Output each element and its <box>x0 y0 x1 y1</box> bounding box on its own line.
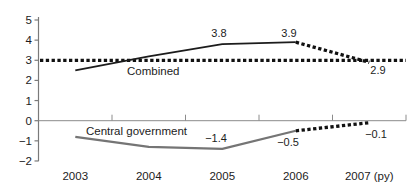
data-label-2.9: 2.9 <box>370 64 385 76</box>
y-axis-label: 1 <box>26 95 32 107</box>
data-label-minus-0.1: −0.1 <box>365 128 387 140</box>
series-label-central-government: Central government <box>86 125 188 137</box>
x-axis-label: 2007 (py) <box>345 170 394 182</box>
y-axis-label: 3 <box>26 54 32 66</box>
data-label-3.9: 3.9 <box>281 27 296 39</box>
y-axis-label: 4 <box>26 34 33 46</box>
data-label-minus-0.5: −0.5 <box>277 136 299 148</box>
y-axis-label: 0 <box>26 115 32 127</box>
line-combined <box>75 42 295 70</box>
chart-canvas: 543210−1−220032004200520062007 (py)Combi… <box>0 0 418 194</box>
y-axis-label: 5 <box>26 14 32 26</box>
data-label-3.8: 3.8 <box>211 27 226 39</box>
x-axis-label: 2005 <box>209 170 235 182</box>
x-axis-label: 2006 <box>283 170 309 182</box>
x-axis-label: 2003 <box>62 170 88 182</box>
y-axis-label: −2 <box>19 155 32 167</box>
fiscal-balance-line-chart: 543210−1−220032004200520062007 (py)Combi… <box>0 0 418 194</box>
data-label-minus-1.4: −1.4 <box>205 132 227 144</box>
line-central-government-projection <box>296 123 370 131</box>
y-axis-label: −1 <box>19 135 32 147</box>
series-label-combined: Combined <box>127 65 179 77</box>
y-axis-label: 2 <box>26 74 32 86</box>
x-axis-label: 2004 <box>136 170 162 182</box>
